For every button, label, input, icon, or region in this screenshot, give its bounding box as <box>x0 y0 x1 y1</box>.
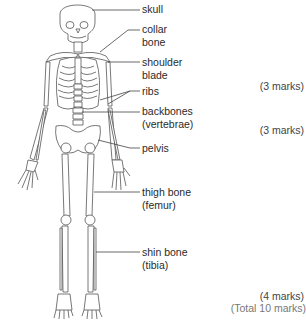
label-shin-bone: shin bone (tibia) <box>142 246 188 271</box>
spine-icon <box>73 84 83 125</box>
femur-icon <box>62 154 70 216</box>
marks-q1: (3 marks) <box>260 80 304 92</box>
skull-icon <box>60 5 95 43</box>
label-collar-bone: collar bone <box>142 23 167 48</box>
marks-total: (Total 10 marks) <box>231 302 306 314</box>
marks-q2: (3 marks) <box>260 124 304 136</box>
label-shoulder-blade: shoulder blade <box>142 56 182 81</box>
label-ribs: ribs <box>142 85 159 98</box>
tibia-icon <box>62 226 68 292</box>
label-skull: skull <box>142 3 163 16</box>
label-backbones: backbones (vertebrae) <box>142 105 193 130</box>
skeleton-diagram <box>0 0 306 321</box>
marks-q3: (4 marks) <box>260 290 304 302</box>
label-pelvis: pelvis <box>142 142 169 155</box>
label-thigh-bone: thigh bone (femur) <box>142 186 191 211</box>
